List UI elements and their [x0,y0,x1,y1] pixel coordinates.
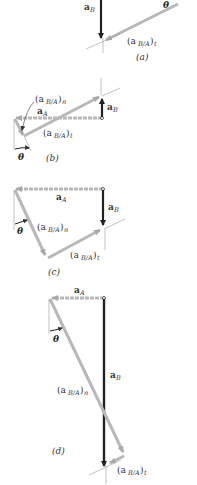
label-a-B: a B [108,202,119,214]
svg-text:n: n [64,226,68,234]
guide-line [24,136,31,151]
svg-text:t: t [144,469,147,477]
svg-text:(a: (a [43,128,53,138]
panel-a: a B θ (a B/A ) t (a) [84,0,178,62]
svg-text:(a: (a [127,36,137,46]
svg-text:t: t [70,132,73,140]
theta-label: θ [17,226,23,236]
panel-d: a A θ a B (a B/A ) n (d) (a B/A ) t [49,285,147,484]
svg-text:(a: (a [117,465,127,475]
theta-arc [50,328,62,331]
panel-b: (a B/A ) n a A a B (a B/A ) t θ (b) [14,78,120,163]
leader-line [22,102,34,130]
caption-a: (a) [136,52,149,62]
label-a-BA-t: (a B/A ) t [43,128,73,140]
label-a-B: a B [110,370,121,382]
svg-text:t: t [97,254,100,262]
label-a-BA-t: (a B/A ) t [127,36,157,48]
guide-line [102,88,120,96]
svg-text:B/A: B/A [137,40,150,48]
label-a-BA-n: (a B/A ) n [35,94,66,106]
svg-text:B/A: B/A [67,389,80,397]
caption-d: (d) [52,446,65,456]
svg-text:B/A: B/A [127,469,140,477]
svg-text:B/A: B/A [53,132,66,140]
svg-text:A: A [79,289,85,297]
svg-text:(a: (a [70,250,80,260]
vector-a-BA-n [15,119,23,135]
theta-label: θ [18,152,24,162]
svg-text:A: A [42,110,48,118]
svg-text:B: B [89,6,95,14]
label-a-A: a A [56,192,67,204]
theta-label: θ [53,334,59,344]
svg-text:A: A [61,196,67,204]
svg-text:t: t [154,40,157,48]
label-a-B: a B [84,2,95,14]
caption-c: (c) [48,267,61,277]
svg-text:): ) [140,465,144,475]
label-a-A: a A [37,106,48,118]
svg-text:(a: (a [57,385,67,395]
svg-text:B/A: B/A [47,226,60,234]
svg-text:B: B [112,106,118,114]
svg-text:(a: (a [37,222,47,232]
svg-text:): ) [150,36,154,46]
svg-text:B: B [115,374,121,382]
label-a-BA-n: (a B/A ) n [37,222,68,234]
svg-text:): ) [80,385,84,395]
svg-text:(a: (a [35,94,45,104]
svg-text:B/A: B/A [80,254,93,262]
label-a-BA-n: (a B/A ) n [57,385,88,397]
theta-arc [15,148,29,149]
svg-text:): ) [58,94,62,104]
svg-text:): ) [66,128,70,138]
caption-b: (b) [46,153,59,163]
svg-text:n: n [62,98,66,106]
svg-text:B: B [113,206,119,214]
label-a-BA-t: (a B/A ) t [117,465,147,477]
svg-text:): ) [93,250,97,260]
acceleration-diagram: a B θ (a B/A ) t (a) (a B/A ) [0,0,197,485]
theta-arc [15,220,27,224]
label-a-B: a B [107,102,118,114]
label-a-BA-t: (a B/A ) t [70,250,100,262]
label-a-A: a A [74,285,85,297]
guide-line [104,219,125,229]
svg-text:): ) [60,222,64,232]
svg-text:n: n [84,389,88,397]
theta-label: θ [163,0,169,10]
svg-text:B/A: B/A [45,98,58,106]
panel-c: a A a B θ (a B/A ) n (a B/A ) t (c) [14,188,125,278]
